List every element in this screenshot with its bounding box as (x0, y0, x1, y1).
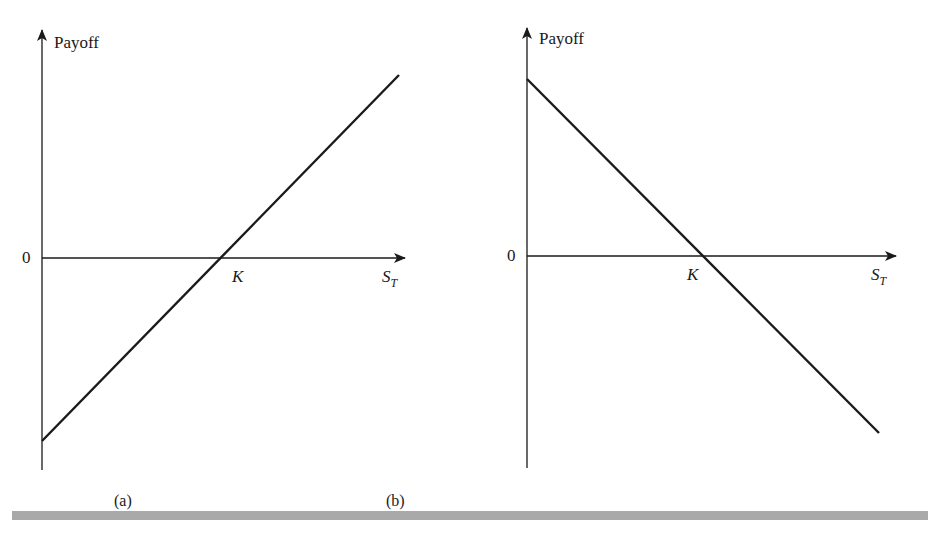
strike-label-a: K (232, 267, 243, 287)
caption-a: (a) (114, 492, 132, 510)
y-axis-label-a: Payoff (54, 33, 99, 53)
x-axis-label-main-a: S (382, 267, 391, 286)
x-axis-label-a: ST (382, 267, 397, 287)
zero-label-b: 0 (507, 246, 516, 266)
x-axis-label-main-b: S (871, 265, 880, 284)
bottom-rule (12, 511, 928, 520)
strike-label-b: K (687, 265, 698, 285)
x-axis-label-sub-a: T (391, 276, 398, 290)
x-axis-label-b: ST (871, 265, 886, 285)
zero-label-a: 0 (22, 248, 31, 268)
chart-b (527, 28, 896, 468)
payoff-diagrams (0, 0, 928, 540)
y-axis-label-b: Payoff (539, 29, 584, 49)
caption-b: (b) (386, 492, 405, 510)
chart-a (42, 30, 405, 470)
x-axis-label-sub-b: T (880, 274, 887, 288)
